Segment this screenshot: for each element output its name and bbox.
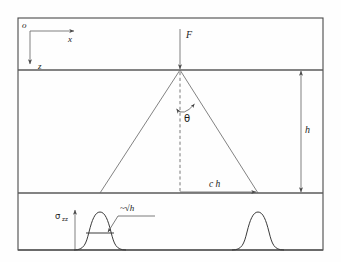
stress-label: σ: [55, 211, 61, 221]
cone-edge-left: [100, 70, 180, 193]
spread-label: c h: [209, 179, 221, 189]
origin-label: o: [22, 20, 27, 30]
figure-canvas: o x z F θ h c h σ zz ~√h: [0, 0, 341, 262]
peak-width-label: ~√h: [120, 203, 135, 213]
angle-arc: [177, 104, 195, 112]
z-axis-label: z: [37, 61, 42, 71]
peak-width-leader: [108, 216, 155, 232]
angle-label: θ: [184, 113, 190, 124]
x-axis-label: x: [67, 34, 72, 44]
force-label: F: [185, 29, 193, 40]
thickness-label: h: [305, 124, 310, 135]
stress-peak-right: [232, 212, 284, 250]
layer-stress-diagram: o x z F θ h c h σ zz ~√h: [0, 0, 341, 262]
cone-edge-right: [180, 70, 258, 193]
stress-subscript-label: zz: [62, 216, 68, 222]
stress-peak-left: [74, 212, 126, 250]
